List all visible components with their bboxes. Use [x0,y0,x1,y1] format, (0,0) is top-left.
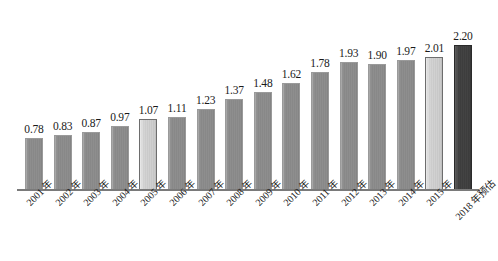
bar-value-label: 1.97 [396,45,415,57]
bar-value-label: 0.83 [53,120,72,132]
bar-value-label: 0.97 [110,111,129,123]
bar-slot: 1.62 [277,0,305,190]
bar-slot: 1.37 [220,0,248,190]
bar[interactable] [311,72,329,190]
bar-slot: 1.48 [249,0,277,190]
bar[interactable] [225,99,243,190]
bar-slot: 1.97 [392,0,420,190]
bar-slot: 1.11 [163,0,191,190]
bar[interactable] [425,57,443,190]
bar-value-label: 1.48 [253,77,272,89]
bar-slot: 0.78 [20,0,48,190]
bar-value-label: 1.07 [139,104,158,116]
bar-slot: 1.78 [306,0,334,190]
bar-slot: 2.01 [420,0,448,190]
bar-slot: 1.90 [363,0,391,190]
bar[interactable] [397,60,415,190]
bar-value-label: 1.23 [196,94,215,106]
bar-slot: 0.83 [49,0,77,190]
bar-value-label: 0.78 [24,123,43,135]
bar-slot: 0.97 [106,0,134,190]
bar-value-label: 0.87 [82,117,101,129]
bar-value-label: 1.37 [225,84,244,96]
plot-area: 0.780.830.870.971.071.111.231.371.481.62… [0,0,495,190]
bar-value-label: 1.90 [368,49,387,61]
bar-slot: 1.93 [335,0,363,190]
bar-value-label: 1.11 [168,102,187,114]
bar-value-label: 1.62 [282,68,301,80]
bar-slot: 1.07 [134,0,162,190]
bar-value-label: 1.93 [339,47,358,59]
bar-value-label: 2.20 [453,30,472,42]
bar-slot: 1.23 [192,0,220,190]
x-axis-label-group: 2001 年2002 年2003 年2004 年2005 年2006 年2007… [0,190,495,261]
bar[interactable] [254,92,272,190]
bar[interactable] [282,83,300,190]
bar-value-label: 2.01 [425,42,444,54]
bar[interactable] [197,109,215,190]
bar-slot: 2.20 [449,0,477,190]
bar-slot: 0.87 [77,0,105,190]
bar[interactable] [368,64,386,190]
bar[interactable] [454,45,472,190]
bar[interactable] [340,62,358,190]
bar-value-label: 1.78 [310,57,329,69]
